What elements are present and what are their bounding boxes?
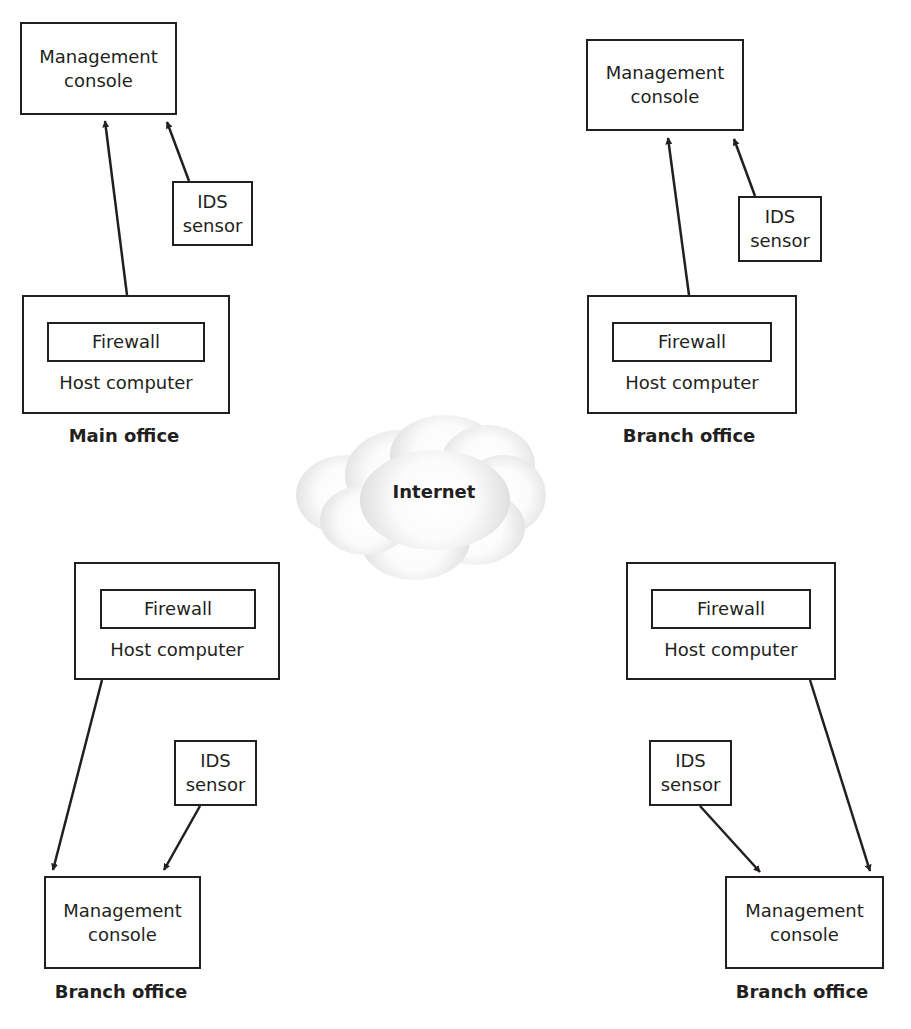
ids-label-line2: sensor xyxy=(186,773,246,797)
ids-sensor-branch-tr[interactable]: IDS sensor xyxy=(738,196,822,262)
host-computer-branch-bl[interactable]: Firewall Host computer xyxy=(74,562,280,680)
console-label-line1: Management xyxy=(606,61,725,85)
arrow-host-to-console-branch-tr xyxy=(668,138,689,295)
firewall-main[interactable]: Firewall xyxy=(47,322,205,362)
arrow-ids-to-console-branch-tr xyxy=(734,139,755,196)
firewall-label: Firewall xyxy=(92,330,160,354)
firewall-branch-tr[interactable]: Firewall xyxy=(612,322,772,362)
arrow-ids-to-console-branch-bl xyxy=(164,806,200,870)
console-label-line1: Management xyxy=(63,899,182,923)
management-console-branch-bl[interactable]: Management console xyxy=(44,876,201,969)
ids-label-line1: IDS xyxy=(197,190,228,214)
firewall-branch-br[interactable]: Firewall xyxy=(651,589,811,629)
ids-label-line2: sensor xyxy=(661,773,721,797)
firewall-branch-bl[interactable]: Firewall xyxy=(100,589,256,629)
host-computer-label: Host computer xyxy=(628,638,834,662)
management-console-branch-br[interactable]: Management console xyxy=(725,876,884,969)
host-computer-label: Host computer xyxy=(589,371,795,395)
arrow-host-to-console-main xyxy=(105,121,127,295)
ids-sensor-branch-br[interactable]: IDS sensor xyxy=(649,740,732,806)
host-computer-branch-br[interactable]: Firewall Host computer xyxy=(626,562,836,680)
host-computer-branch-tr[interactable]: Firewall Host computer xyxy=(587,295,797,414)
arrow-ids-to-console-branch-br xyxy=(700,806,760,872)
console-label-line2: console xyxy=(631,85,700,109)
host-computer-main[interactable]: Firewall Host computer xyxy=(22,295,230,414)
firewall-label: Firewall xyxy=(697,597,765,621)
management-console-branch-tr[interactable]: Management console xyxy=(586,39,744,131)
host-computer-label: Host computer xyxy=(76,638,278,662)
site-label-branch-office-tr: Branch office xyxy=(623,425,756,446)
arrow-host-to-console-branch-bl xyxy=(53,680,102,870)
ids-sensor-branch-bl[interactable]: IDS sensor xyxy=(174,740,257,806)
ids-label-line2: sensor xyxy=(183,214,243,238)
firewall-label: Firewall xyxy=(144,597,212,621)
console-label-line2: console xyxy=(770,923,839,947)
connector-layer xyxy=(0,0,911,1029)
ids-label-line1: IDS xyxy=(765,205,796,229)
ids-label-line1: IDS xyxy=(675,749,706,773)
console-label-line2: console xyxy=(88,923,157,947)
site-label-branch-office-br: Branch office xyxy=(736,981,869,1002)
arrow-host-to-console-branch-br xyxy=(810,680,870,871)
console-label-line1: Management xyxy=(39,45,158,69)
ids-sensor-main[interactable]: IDS sensor xyxy=(172,181,253,246)
internet-label: Internet xyxy=(393,481,476,502)
management-console-main[interactable]: Management console xyxy=(20,22,177,115)
firewall-label: Firewall xyxy=(658,330,726,354)
console-label-line2: console xyxy=(64,69,133,93)
site-label-branch-office-bl: Branch office xyxy=(55,981,188,1002)
host-computer-label: Host computer xyxy=(24,371,228,395)
site-label-main-office: Main office xyxy=(69,425,180,446)
ids-label-line1: IDS xyxy=(200,749,231,773)
arrow-ids-to-console-main xyxy=(167,122,189,181)
console-label-line1: Management xyxy=(745,899,864,923)
ids-label-line2: sensor xyxy=(750,229,810,253)
